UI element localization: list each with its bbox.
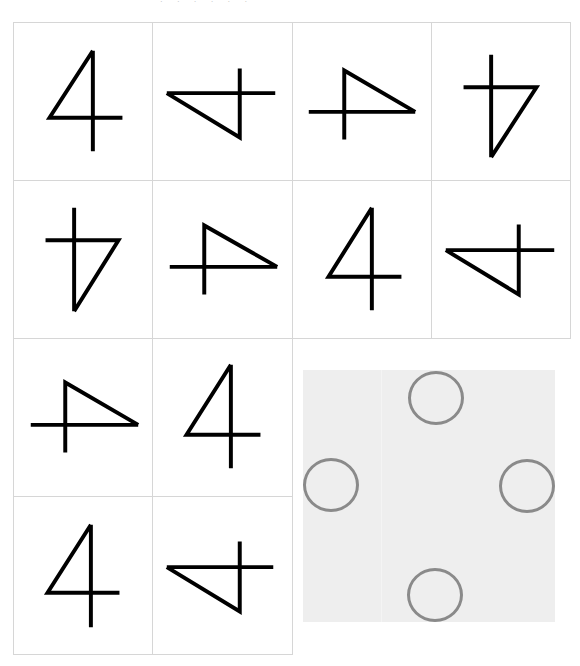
answer-slot-left[interactable] bbox=[303, 458, 359, 512]
grid-cell-r1-c0 bbox=[13, 180, 153, 339]
grid-cell-r3-c1 bbox=[152, 496, 293, 655]
digit-four-rotated-90-icon bbox=[293, 23, 431, 180]
grid-cell-r2-c1 bbox=[152, 338, 293, 497]
panel-divider bbox=[381, 370, 382, 622]
digit-four-upright-icon bbox=[293, 181, 431, 338]
grid-cell-r0-c2 bbox=[292, 22, 432, 181]
digit-four-upright-icon bbox=[14, 23, 152, 180]
answer-slot-top[interactable] bbox=[408, 371, 464, 425]
digit-four-upright-icon bbox=[153, 339, 292, 496]
digit-four-rotated-180-icon bbox=[432, 23, 570, 180]
grid-cell-r3-c0 bbox=[13, 496, 153, 655]
answer-slot-bottom[interactable] bbox=[407, 568, 463, 622]
grid-cell-r0-c3 bbox=[431, 22, 571, 181]
answer-slot-right[interactable] bbox=[499, 459, 555, 513]
grid-cell-r2-c0 bbox=[13, 338, 153, 497]
header-text-fragment: · · · · · · bbox=[160, 0, 320, 4]
digit-four-rotated-270-icon bbox=[432, 181, 570, 338]
digit-four-rotated-270-icon bbox=[153, 23, 292, 180]
grid-cell-r0-c1 bbox=[152, 22, 293, 181]
grid-cell-r1-c3 bbox=[431, 180, 571, 339]
digit-four-upright-icon bbox=[14, 497, 152, 654]
digit-four-rotated-90-icon bbox=[14, 339, 152, 496]
digit-four-rotated-90-icon bbox=[153, 181, 292, 338]
digit-four-rotated-180-icon bbox=[14, 181, 152, 338]
grid-cell-r0-c0 bbox=[13, 22, 153, 181]
answer-panel bbox=[303, 370, 555, 622]
digit-four-rotated-270-icon bbox=[153, 497, 292, 654]
grid-cell-r1-c1 bbox=[152, 180, 293, 339]
grid-cell-r1-c2 bbox=[292, 180, 432, 339]
